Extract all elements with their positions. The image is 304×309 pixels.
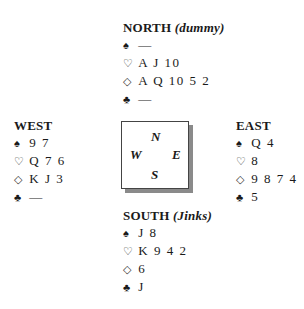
south-spades-row: ♠ J 8 <box>123 224 212 242</box>
spade-icon: ♠ <box>123 37 135 54</box>
diamond-icon: ◇ <box>14 171 26 188</box>
west-diamonds: K J 3 <box>29 171 64 186</box>
compass-table: N W E S <box>121 121 189 189</box>
south-clubs-row: ♣ J <box>123 278 212 296</box>
diamond-icon: ◇ <box>123 73 135 90</box>
east-title: EAST <box>236 117 298 134</box>
club-icon: ♣ <box>123 91 135 108</box>
west-clubs: — <box>29 189 44 204</box>
north-title: NORTH (dummy) <box>123 19 224 36</box>
diamond-icon: ◇ <box>123 261 135 278</box>
south-spades: J 8 <box>138 225 157 240</box>
heart-icon: ♡ <box>123 55 135 72</box>
heart-icon: ♡ <box>123 243 135 260</box>
north-note: (dummy) <box>175 20 225 35</box>
east-hearts: 8 <box>251 153 259 168</box>
east-diamonds: 9 8 7 4 <box>251 171 297 186</box>
west-hand: WEST ♠ 9 7 ♡ Q 7 6 ◇ K J 3 ♣ — <box>14 117 66 206</box>
compass-south: S <box>151 168 158 181</box>
north-label: NORTH <box>123 20 171 35</box>
west-label: WEST <box>14 118 52 133</box>
north-hand: NORTH (dummy) ♠ — ♡ A J 10 ◇ A Q 10 5 2 … <box>123 19 224 108</box>
north-diamonds: A Q 10 5 2 <box>138 73 210 88</box>
east-clubs-row: ♣ 5 <box>236 188 298 206</box>
west-title: WEST <box>14 117 66 134</box>
north-clubs-row: ♣ — <box>123 90 224 108</box>
west-diamonds-row: ◇ K J 3 <box>14 170 66 188</box>
east-clubs: 5 <box>251 189 259 204</box>
east-hearts-row: ♡ 8 <box>236 152 298 170</box>
south-label: SOUTH <box>123 208 170 223</box>
west-hearts-row: ♡ Q 7 6 <box>14 152 66 170</box>
west-spades-row: ♠ 9 7 <box>14 134 66 152</box>
spade-icon: ♠ <box>14 135 26 152</box>
east-spades: Q 4 <box>251 135 275 150</box>
club-icon: ♣ <box>236 189 248 206</box>
heart-icon: ♡ <box>236 153 248 170</box>
east-label: EAST <box>236 118 271 133</box>
club-icon: ♣ <box>14 189 26 206</box>
south-note: (Jinks) <box>173 208 212 223</box>
west-hearts: Q 7 6 <box>29 153 65 168</box>
compass-west: W <box>130 148 142 161</box>
club-icon: ♣ <box>123 279 135 296</box>
south-hearts-row: ♡ K 9 4 2 <box>123 242 212 260</box>
east-spades-row: ♠ Q 4 <box>236 134 298 152</box>
south-diamonds: 6 <box>138 261 146 276</box>
south-diamonds-row: ◇ 6 <box>123 260 212 278</box>
east-hand: EAST ♠ Q 4 ♡ 8 ◇ 9 8 7 4 ♣ 5 <box>236 117 298 206</box>
south-clubs: J <box>138 279 145 294</box>
west-clubs-row: ♣ — <box>14 188 66 206</box>
south-title: SOUTH (Jinks) <box>123 207 212 224</box>
north-diamonds-row: ◇ A Q 10 5 2 <box>123 72 224 90</box>
compass-east: E <box>172 148 181 161</box>
diamond-icon: ◇ <box>236 171 248 188</box>
compass-north: N <box>151 130 160 143</box>
south-hearts: K 9 4 2 <box>138 243 187 258</box>
north-hearts: A J 10 <box>138 55 180 70</box>
west-spades: 9 7 <box>29 135 50 150</box>
north-spades: — <box>138 37 153 52</box>
north-spades-row: ♠ — <box>123 36 224 54</box>
north-hearts-row: ♡ A J 10 <box>123 54 224 72</box>
south-hand: SOUTH (Jinks) ♠ J 8 ♡ K 9 4 2 ◇ 6 ♣ J <box>123 207 212 296</box>
north-clubs: — <box>138 91 153 106</box>
spade-icon: ♠ <box>123 225 135 242</box>
east-diamonds-row: ◇ 9 8 7 4 <box>236 170 298 188</box>
spade-icon: ♠ <box>236 135 248 152</box>
heart-icon: ♡ <box>14 153 26 170</box>
